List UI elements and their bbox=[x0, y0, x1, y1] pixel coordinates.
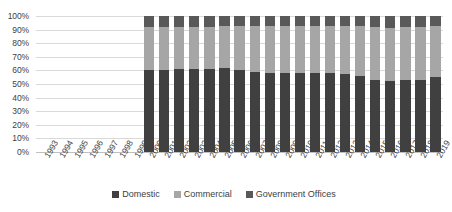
bar-stack bbox=[174, 16, 184, 152]
bar-segment-government-offices bbox=[325, 16, 335, 26]
bar-slot bbox=[81, 16, 96, 152]
x-axis-slot: 2015 bbox=[368, 152, 383, 188]
bar-segment-commercial bbox=[144, 27, 154, 71]
y-axis-tick-label: 90% bbox=[12, 25, 29, 34]
bar-stack bbox=[385, 16, 395, 152]
bar-stack bbox=[219, 16, 229, 152]
bar-slot bbox=[368, 16, 383, 152]
x-axis-slot: 2018 bbox=[413, 152, 428, 188]
bar-segment-commercial bbox=[265, 26, 275, 74]
plot-area bbox=[36, 16, 443, 152]
bar-slot bbox=[322, 16, 337, 152]
bar-slot bbox=[353, 16, 368, 152]
bar-slot bbox=[66, 16, 81, 152]
bar-segment-commercial bbox=[415, 27, 425, 80]
bar-segment-commercial bbox=[325, 26, 335, 74]
bar-segment-government-offices bbox=[219, 16, 229, 26]
x-axis-slot: 2003 bbox=[187, 152, 202, 188]
bar-segment-government-offices bbox=[174, 16, 184, 27]
x-axis-slot: 2019 bbox=[428, 152, 443, 188]
bar-segment-commercial bbox=[370, 27, 380, 80]
bar-segment-government-offices bbox=[265, 16, 275, 26]
bar-stack bbox=[144, 16, 154, 152]
bar-segment-government-offices bbox=[234, 16, 244, 26]
bar-segment-government-offices bbox=[370, 16, 380, 27]
bar-segment-commercial bbox=[159, 27, 169, 71]
bar-slot bbox=[247, 16, 262, 152]
legend-item[interactable]: Domestic bbox=[112, 190, 160, 199]
bar-stack bbox=[340, 16, 350, 152]
bar-stack bbox=[355, 16, 365, 152]
bar-stack bbox=[250, 16, 260, 152]
bar-segment-government-offices bbox=[310, 16, 320, 26]
x-axis-slot: 1994 bbox=[51, 152, 66, 188]
bar-slot bbox=[383, 16, 398, 152]
legend-label: Commercial bbox=[184, 190, 232, 199]
legend-item[interactable]: Government Offices bbox=[246, 190, 336, 199]
y-axis-tick-label: 100% bbox=[8, 12, 29, 21]
bar-stack bbox=[310, 16, 320, 152]
bar-stack bbox=[400, 16, 410, 152]
y-axis-tick-label: 0% bbox=[17, 148, 29, 157]
x-axis-slot: 2000 bbox=[142, 152, 157, 188]
bar-segment-commercial bbox=[430, 26, 440, 78]
bar-segment-government-offices bbox=[295, 16, 305, 26]
bar-stack bbox=[325, 16, 335, 152]
x-axis-slot: 2010 bbox=[292, 152, 307, 188]
bar-slot bbox=[51, 16, 66, 152]
y-axis-tick-label: 40% bbox=[12, 93, 29, 102]
bar-segment-commercial bbox=[280, 26, 290, 74]
y-axis-tick-label: 50% bbox=[12, 80, 29, 89]
bar-segment-commercial bbox=[250, 26, 260, 72]
bar-slot bbox=[187, 16, 202, 152]
x-axis-slot: 2009 bbox=[277, 152, 292, 188]
x-axis-slot: 2005 bbox=[217, 152, 232, 188]
legend-item[interactable]: Commercial bbox=[174, 190, 232, 199]
x-axis-slot: 1996 bbox=[81, 152, 96, 188]
bar-segment-government-offices bbox=[385, 16, 395, 28]
y-axis-tick-label: 10% bbox=[12, 134, 29, 143]
bar-slot bbox=[157, 16, 172, 152]
bar-segment-government-offices bbox=[400, 16, 410, 27]
x-axis-slot: 2011 bbox=[307, 152, 322, 188]
y-axis-tick-label: 70% bbox=[12, 53, 29, 62]
bar-slot bbox=[111, 16, 126, 152]
bar-segment-commercial bbox=[219, 26, 229, 68]
bar-stack bbox=[204, 16, 214, 152]
bar-segment-government-offices bbox=[340, 16, 350, 26]
bar-segment-government-offices bbox=[415, 16, 425, 27]
bar-segment-domestic bbox=[219, 68, 229, 152]
bar-slot bbox=[262, 16, 277, 152]
bar-slot bbox=[142, 16, 157, 152]
bar-slot bbox=[428, 16, 443, 152]
y-axis-tick-label: 20% bbox=[12, 121, 29, 130]
bar-segment-commercial bbox=[385, 28, 395, 81]
bar-stack bbox=[234, 16, 244, 152]
bar-segment-government-offices bbox=[204, 16, 214, 27]
bar-segment-commercial bbox=[234, 26, 244, 71]
bar-segment-commercial bbox=[355, 26, 365, 76]
bar-slot bbox=[96, 16, 111, 152]
bar-segment-commercial bbox=[189, 27, 199, 69]
legend-swatch-icon bbox=[112, 191, 119, 198]
bar-stack bbox=[430, 16, 440, 152]
bar-segment-government-offices bbox=[355, 16, 365, 26]
bar-slot bbox=[292, 16, 307, 152]
bar-segment-commercial bbox=[204, 27, 214, 69]
bar-stack bbox=[265, 16, 275, 152]
y-axis: 100%90%80%70%60%50%40%30%20%10%0% bbox=[0, 16, 32, 152]
x-axis-slot: 1998 bbox=[111, 152, 126, 188]
bar-slot bbox=[338, 16, 353, 152]
x-axis-slot: 2017 bbox=[398, 152, 413, 188]
x-axis-slot: 2013 bbox=[338, 152, 353, 188]
bar-segment-commercial bbox=[174, 27, 184, 69]
bar-stack bbox=[189, 16, 199, 152]
bar-segment-government-offices bbox=[280, 16, 290, 26]
legend-label: Government Offices bbox=[256, 190, 336, 199]
bar-segment-government-offices bbox=[430, 16, 440, 26]
x-axis-slot: 2012 bbox=[322, 152, 337, 188]
bar-stack bbox=[159, 16, 169, 152]
legend-swatch-icon bbox=[174, 191, 181, 198]
bar-segment-government-offices bbox=[159, 16, 169, 27]
